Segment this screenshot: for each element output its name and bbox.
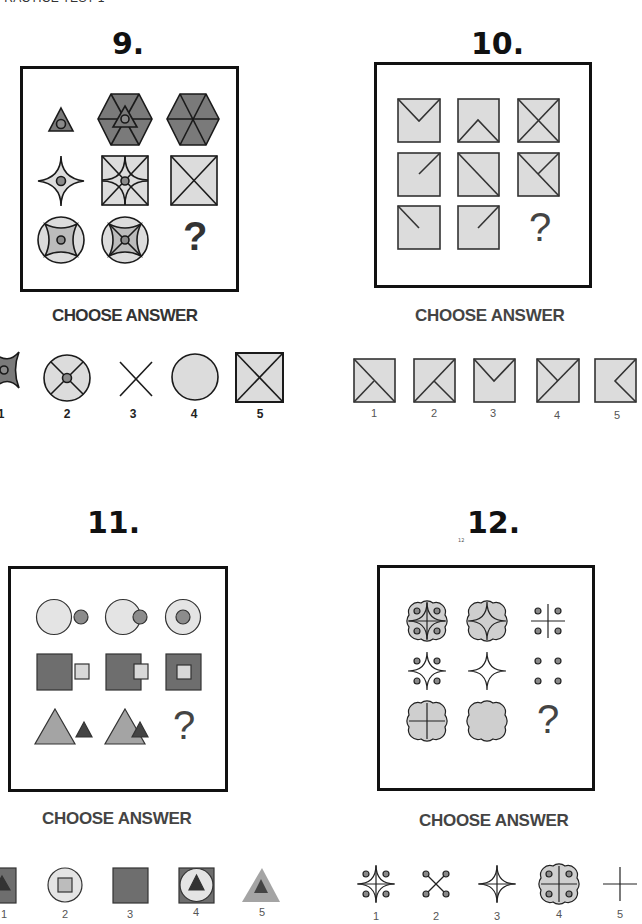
answer-12-1[interactable]: 1: [366, 910, 386, 922]
answer-12-3-icon: [478, 865, 516, 903]
answer-12-2-icon: [423, 871, 449, 897]
answer-12-5[interactable]: 5: [610, 908, 630, 920]
answer-12-2[interactable]: 2: [426, 910, 446, 922]
answer-12-1-icon: [357, 865, 395, 903]
answer-12-5-icon: [603, 867, 637, 901]
answer-12-3[interactable]: 3: [487, 910, 507, 922]
answer-12-4[interactable]: 4: [549, 908, 569, 920]
answer-12-4-icon: [539, 864, 579, 904]
answers-12-shapes: [0, 0, 642, 924]
